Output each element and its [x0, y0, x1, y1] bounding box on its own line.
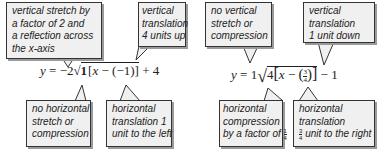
eq1-b: 1 — [81, 62, 89, 78]
callout-line: 1 unit down — [309, 30, 369, 43]
frac-num: 1 — [284, 128, 287, 135]
callout-line: the x-axis — [12, 43, 96, 56]
eq1-minus: − — [101, 63, 108, 78]
fraction-three-fourths: 34 — [299, 128, 302, 141]
eq2-equals: = — [240, 67, 247, 82]
callout-horizontal-compression: horizontal compression by a factor of 14 — [219, 100, 283, 147]
callout-horizontal-translation-right: horizontal translation 34 unit to the ri… — [293, 100, 375, 147]
eq1-k: + 4 — [142, 63, 159, 78]
callout-text: unit to the right — [305, 128, 371, 139]
fraction-one-fourth: 14 — [284, 128, 287, 141]
callout-line: vertical stretch by — [12, 5, 96, 18]
callout-horizontal-translation-left: horizontal translation 1 unit to the lef… — [106, 100, 172, 147]
callout-vertical-stretch: vertical stretch by a factor of 2 and a … — [6, 2, 102, 59]
eq1-x: x — [92, 63, 98, 78]
eq1-equals: = — [49, 63, 56, 78]
callout-line: 34 unit to the right — [299, 128, 369, 141]
callout-line: no vertical — [211, 5, 266, 18]
equation-1: y = −2√1[x − (−1)] + 4 — [40, 63, 159, 79]
eq1-y: y — [40, 63, 46, 78]
radical-icon: √ — [257, 66, 267, 86]
callout-line: vertical — [142, 5, 182, 18]
callout-line: compression — [211, 30, 266, 43]
callout-line: no horizontal — [32, 103, 85, 116]
frac-den: 4 — [299, 135, 302, 141]
callout-no-vertical-stretch: no vertical stretch or compression — [205, 2, 272, 47]
eq2-minus: − — [288, 67, 295, 82]
equation-2: y = 1√4[x − (34)] − 1 — [231, 65, 338, 87]
callout-line: 4 units up — [142, 30, 182, 43]
callout-line: a factor of 2 and — [12, 18, 96, 31]
frac-num: 3 — [299, 128, 302, 135]
callout-line: stretch or — [211, 18, 266, 31]
eq2-k: − 1 — [321, 67, 338, 82]
callout-line: horizontal — [299, 103, 369, 116]
eq1-h: (−1) — [112, 63, 135, 78]
frac-den: 4 — [284, 135, 287, 141]
eq2-bracket-close: ] — [312, 65, 317, 82]
eq2-y: y — [231, 67, 237, 82]
callout-line: compression — [32, 128, 85, 141]
callout-line: translation — [309, 18, 369, 31]
eq2-x: x — [279, 67, 285, 82]
eq1-bracket-close: ] — [135, 63, 139, 78]
radical-icon: √ — [73, 63, 80, 78]
callout-text: by a factor of — [223, 128, 281, 139]
callout-no-horizontal-stretch: no horizontal stretch or compression — [26, 100, 91, 147]
callout-line: horizontal — [112, 103, 166, 116]
callout-vertical-translation-up: vertical translation 4 units up — [138, 2, 186, 47]
callout-line: stretch or — [32, 116, 85, 129]
callout-line: a reflection across — [12, 30, 96, 43]
eq1-a: −2 — [60, 63, 74, 78]
callout-line: by a factor of 14 — [223, 128, 279, 141]
callout-line: horizontal — [223, 103, 279, 116]
transformation-diagram: vertical stretch by a factor of 2 and a … — [0, 0, 384, 159]
callout-line: unit to the left — [112, 128, 166, 141]
callout-line: translation 1 — [112, 116, 166, 129]
callout-line: translation — [142, 18, 182, 31]
callout-line: vertical — [309, 5, 369, 18]
callout-line: compression — [223, 116, 279, 129]
callout-line: translation — [299, 116, 369, 129]
callout-vertical-translation-down: vertical translation 1 unit down — [303, 2, 375, 43]
